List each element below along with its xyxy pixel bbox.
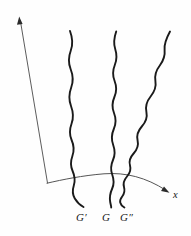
diagram-svg [0,0,191,236]
curve-label-g: G [102,211,110,223]
x-axis-label: x [173,189,178,200]
wavy-curve-g [110,32,117,208]
figure-canvas: G′ G G″ x [0,0,191,236]
curved-baseline-path [47,174,166,190]
curve-label-g-prime: G′ [76,211,87,223]
vertical-axis-arrowhead [17,17,23,25]
vertical-axis [17,17,48,184]
horizontal-axis [47,174,170,193]
wavy-curve-g-double-prime [120,32,170,208]
wavy-curve-g-prime [69,31,84,207]
vertical-axis-line [21,22,48,184]
curve-label-g-double-prime: G″ [120,211,133,223]
